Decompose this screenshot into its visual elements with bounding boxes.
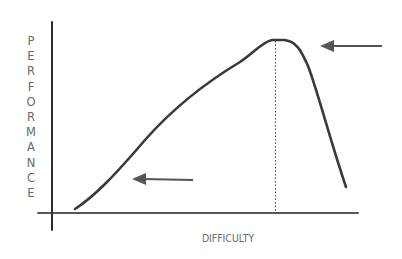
y-label-letter: O: [24, 95, 38, 110]
y-label-letter: C: [24, 171, 38, 186]
y-label-letter: E: [24, 49, 38, 64]
y-axis-label: P E R F O R M A N C E: [24, 34, 38, 201]
performance-curve: [75, 40, 346, 209]
y-label-letter: E: [24, 186, 38, 201]
y-label-letter: R: [24, 64, 38, 79]
chart-svg: [0, 0, 402, 259]
y-label-letter: R: [24, 110, 38, 125]
y-label-letter: A: [24, 140, 38, 155]
y-label-letter: M: [24, 125, 38, 140]
arrow-left-icon-lower: [132, 173, 193, 185]
x-axis-label: DIFFICULTY: [194, 232, 262, 245]
diagram-canvas: P E R F O R M A N C E DIFFICULTY: [0, 0, 402, 259]
y-label-letter: F: [24, 80, 38, 95]
y-label-letter: P: [24, 34, 38, 49]
arrow-left-icon-upper: [320, 40, 382, 52]
y-label-letter: N: [24, 156, 38, 171]
